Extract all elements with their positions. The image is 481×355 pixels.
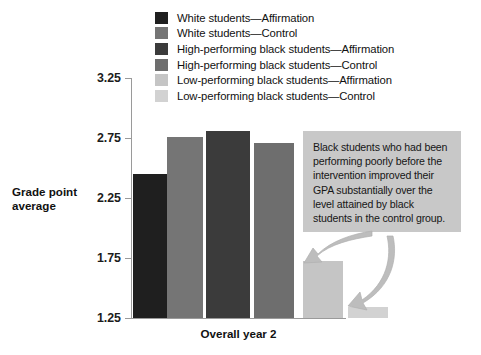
bar-high-performing-affirmation [206, 131, 250, 318]
x-axis-title: Overall year 2 [131, 327, 346, 340]
annotation-callout: Black students who had been performing p… [303, 131, 461, 232]
bar-high-performing-control [254, 143, 294, 318]
bar-low-performing-affirmation [303, 261, 343, 318]
y-tick-label: 2.75 [75, 131, 121, 145]
annotation-callout-text: Black students who had been performing p… [313, 140, 452, 225]
bar-low-performing-control [348, 307, 388, 318]
x-axis-line [131, 318, 346, 319]
y-tick-label: 1.25 [75, 311, 121, 325]
chart-figure: White students—Affirmation White student… [0, 0, 481, 355]
bar-white-control [167, 137, 203, 318]
y-axis-line [131, 78, 132, 319]
y-tick-label: 3.25 [75, 71, 121, 85]
y-tick-325 [125, 78, 131, 79]
y-tick-175 [125, 258, 131, 259]
bar-white-affirmation [133, 174, 167, 318]
y-tick-label: 1.75 [75, 251, 121, 265]
y-axis-title: Grade point average [12, 185, 88, 212]
y-tick-125 [125, 318, 131, 319]
y-tick-275 [125, 138, 131, 139]
y-tick-225 [125, 198, 131, 199]
